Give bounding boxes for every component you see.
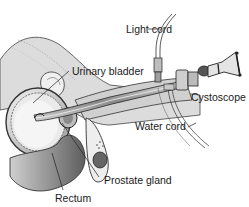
cystoscope-eyepiece <box>176 51 242 90</box>
cystoscopy-diagram: Light cord Urinary bladder Cystoscope Wa… <box>0 0 249 207</box>
rectum-label: Rectum <box>55 193 91 204</box>
scrotum <box>86 118 108 182</box>
prostate-gland-label: Prostate gland <box>104 175 172 186</box>
urinary-bladder-label: Urinary bladder <box>72 66 144 77</box>
light-cord-label: Light cord <box>126 24 172 35</box>
cystoscope-label: Cystoscope <box>191 92 246 103</box>
water-cord-label: Water cord <box>135 121 186 132</box>
